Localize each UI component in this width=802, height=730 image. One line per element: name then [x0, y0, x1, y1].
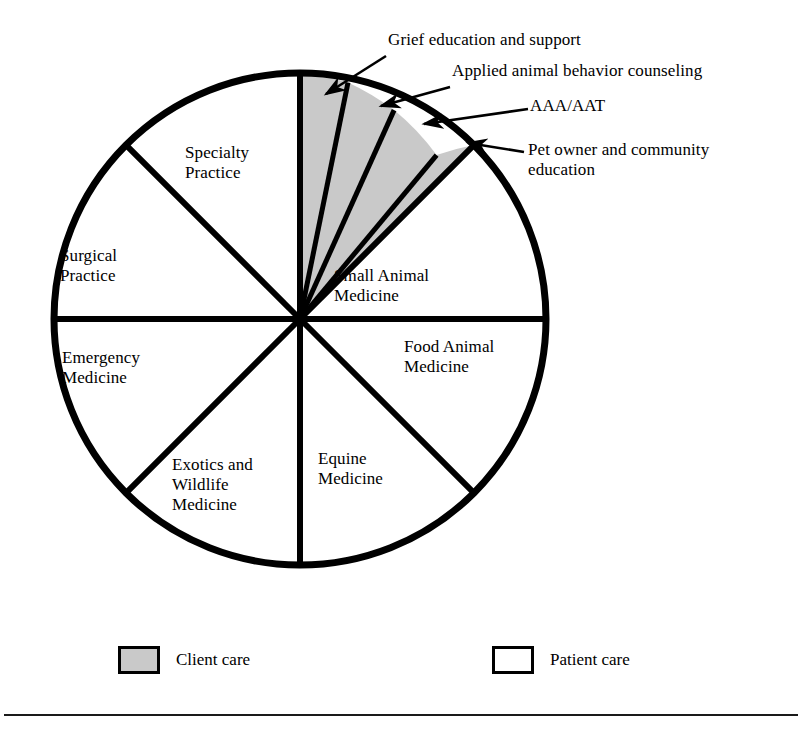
legend-entry-client-care: Client care: [118, 646, 250, 674]
sector-label-specialty-practice: Specialty Practice: [185, 143, 249, 183]
sector-label-emergency-medicine: Emergency Medicine: [62, 348, 140, 388]
callout-label-applied-animal-behavior-counseling: Applied animal behavior counseling: [452, 61, 702, 81]
legend-label-patient-care: Patient care: [550, 650, 630, 670]
pie-chart-figure: Grief education and support Applied anim…: [0, 0, 802, 730]
sector-label-food-animal-medicine: Food Animal Medicine: [404, 337, 494, 377]
sector-label-equine-medicine: Equine Medicine: [318, 449, 383, 489]
legend-label-client-care: Client care: [176, 650, 250, 670]
callout-label-grief-education-and-support: Grief education and support: [388, 30, 581, 50]
sector-label-exotics-and-wildlife-medicine: Exotics and Wildlife Medicine: [172, 455, 253, 515]
legend-entry-patient-care: Patient care: [492, 646, 630, 674]
legend-swatch-client-care: [118, 646, 160, 674]
sector-label-small-animal-medicine: Small Animal Medicine: [334, 266, 429, 306]
callout-label-pet-owner-and-community-education: Pet owner and community education: [528, 140, 709, 180]
legend-swatch-patient-care: [492, 646, 534, 674]
figure-bottom-rule: [4, 714, 798, 716]
sector-label-surgical-practice: Surgical Practice: [60, 246, 117, 286]
chart-legend: Client care Patient care: [0, 640, 802, 690]
callout-label-aaa-aat: AAA/AAT: [530, 96, 605, 116]
